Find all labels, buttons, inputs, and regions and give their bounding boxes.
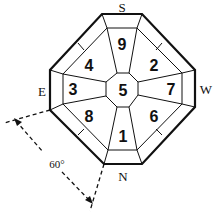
sector-label-left: 3 bbox=[69, 81, 78, 98]
direction-left: E bbox=[38, 84, 46, 99]
sector-label-bottom-left: 8 bbox=[85, 108, 94, 125]
angle-label: 60° bbox=[49, 158, 64, 170]
sector-label-top-right: 2 bbox=[150, 57, 159, 74]
sector-label-bottom: 1 bbox=[119, 128, 128, 145]
arrowhead-lower bbox=[85, 196, 93, 204]
sector-label-bottom-right: 6 bbox=[150, 108, 159, 125]
arrowhead-upper bbox=[14, 118, 22, 126]
octagon-diagram: 9 2 7 6 1 8 3 4 5 S W N E 60° bbox=[0, 0, 216, 213]
sector-label-right: 7 bbox=[167, 81, 176, 98]
direction-bottom: N bbox=[118, 169, 128, 184]
direction-top: S bbox=[118, 0, 125, 15]
sector-label-top-left: 4 bbox=[85, 57, 94, 74]
direction-right: W bbox=[200, 82, 213, 97]
sector-label-center: 5 bbox=[119, 82, 128, 99]
sector-label-top: 9 bbox=[118, 36, 127, 53]
